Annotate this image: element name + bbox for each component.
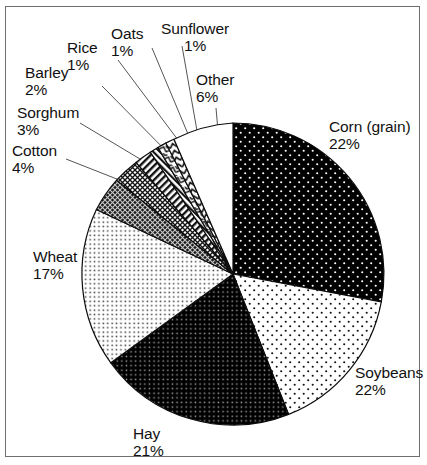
label-oats-name: Oats xyxy=(111,25,143,42)
label-other-percent: 6% xyxy=(196,88,234,105)
pie-chart-figure: Corn (grain) 22% Soybeans 22% Hay 21% Wh… xyxy=(0,0,427,465)
label-barley: Barley 2% xyxy=(25,64,68,98)
label-other-name: Other xyxy=(196,71,234,88)
label-hay-name: Hay xyxy=(133,425,164,442)
label-sorghum: Sorghum 3% xyxy=(17,104,79,138)
label-sunflower-name: Sunflower xyxy=(152,20,238,37)
label-cotton: Cotton 4% xyxy=(12,142,57,176)
label-barley-percent: 2% xyxy=(25,81,68,98)
pie-slices xyxy=(82,123,384,425)
label-hay-percent: 21% xyxy=(133,442,164,459)
label-wheat-percent: 17% xyxy=(33,265,77,282)
label-rice: Rice 1% xyxy=(67,39,98,73)
leader-oats xyxy=(152,48,193,146)
label-oats: Oats 1% xyxy=(111,25,143,59)
label-cotton-percent: 4% xyxy=(12,159,57,176)
label-rice-percent: 1% xyxy=(67,56,98,73)
label-hay: Hay 21% xyxy=(133,425,164,459)
label-soybeans-percent: 22% xyxy=(355,381,423,398)
label-corn-grain-percent: 22% xyxy=(329,135,411,152)
label-wheat-name: Wheat xyxy=(33,248,77,265)
label-cotton-name: Cotton xyxy=(12,142,57,159)
label-sunflower: Sunflower 1% xyxy=(152,20,238,54)
label-sorghum-name: Sorghum xyxy=(17,104,79,121)
label-soybeans: Soybeans 22% xyxy=(355,364,423,398)
label-oats-percent: 1% xyxy=(111,42,143,59)
label-corn-grain: Corn (grain) 22% xyxy=(329,118,411,152)
label-corn-grain-name: Corn (grain) xyxy=(329,118,411,135)
label-rice-name: Rice xyxy=(67,39,98,56)
label-sunflower-percent: 1% xyxy=(152,37,238,54)
label-soybeans-name: Soybeans xyxy=(355,364,423,381)
label-sorghum-percent: 3% xyxy=(17,121,79,138)
label-wheat: Wheat 17% xyxy=(33,248,77,282)
label-barley-name: Barley xyxy=(25,64,68,81)
label-other: Other 6% xyxy=(196,71,234,105)
